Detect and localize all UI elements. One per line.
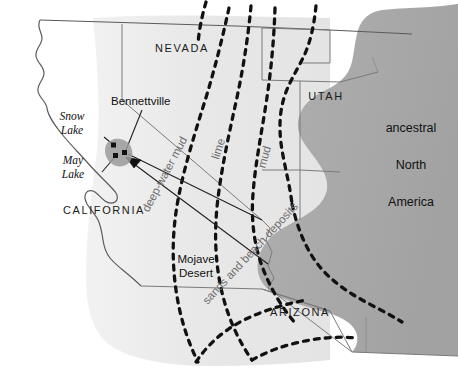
locality-label-may-lake-line2: Lake	[61, 168, 84, 180]
state-label-california: CALIFORNIA	[63, 204, 145, 216]
state-label-nevada: NEVADA	[155, 42, 209, 54]
paleogeographic-map: NEVADA UTAH CALIFORNIA ARIZONA Mojave De…	[0, 0, 458, 371]
state-label-utah: UTAH	[308, 90, 344, 102]
state-label-arizona: ARIZONA	[270, 306, 330, 318]
locality-label-may-lake-line1: May	[62, 154, 84, 167]
region-label-mojave-desert-line1: Mojave	[177, 253, 214, 265]
locality-label-snow-lake-line1: Snow	[60, 110, 85, 122]
map-canvas: NEVADA UTAH CALIFORNIA ARIZONA Mojave De…	[0, 0, 458, 371]
locality-marker-bennettville	[122, 150, 127, 155]
locality-marker-may-lake	[113, 153, 118, 158]
region-label-mojave-desert-line2: Desert	[179, 267, 214, 279]
locality-label-bennettville: Bennettville	[111, 95, 170, 107]
craton-label-line2: North	[396, 158, 427, 172]
locality-label-snow-lake-line2: Lake	[60, 124, 83, 136]
craton-label-line3: America	[388, 195, 434, 209]
locality-marker-snow-lake	[111, 143, 116, 148]
craton-label-line1: ancestral	[386, 121, 437, 135]
